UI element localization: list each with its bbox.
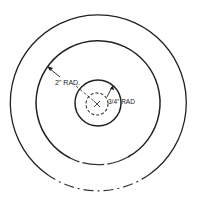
middle-circle [36,41,160,158]
small-radius-leader [107,85,114,97]
large-radius-label: 2" RAD. [55,79,80,86]
middle-circle-bottom-segment [70,157,128,165]
center-mark-icon [94,101,100,107]
concentric-circle-drawing: 2" RAD. 3/4" RAD [0,0,197,201]
outer-circle-bottom-dashes [48,174,150,191]
small-radius-label: 3/4" RAD [108,98,135,105]
diagram-canvas: 2" RAD. 3/4" RAD [0,0,197,201]
